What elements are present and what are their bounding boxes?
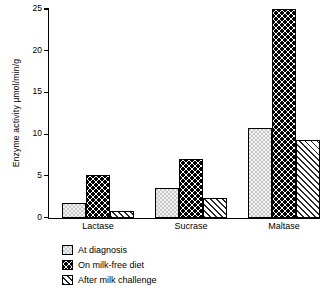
y-tick-label: 5 xyxy=(16,171,42,180)
legend-item: At diagnosis xyxy=(62,243,157,257)
bar-sucrase-after-milk-challenge xyxy=(203,198,227,217)
y-tick-label: 15 xyxy=(16,87,42,96)
x-axis-line xyxy=(48,218,320,219)
y-tick-mark xyxy=(44,134,49,135)
legend-swatch-at-diagnosis xyxy=(62,245,73,255)
legend-item: After milk challenge xyxy=(62,273,157,287)
legend-item: On milk-free diet xyxy=(62,258,157,272)
legend-label: On milk-free diet xyxy=(78,261,144,270)
bar-sucrase-at-diagnosis xyxy=(155,188,179,218)
bar-lactase-after-milk-challenge xyxy=(110,211,134,218)
legend-label: After milk challenge xyxy=(78,276,157,285)
bar-chart-figure: Enzyme activity µmol/min/g 0510152025 La… xyxy=(0,0,329,295)
bar-lactase-at-diagnosis xyxy=(62,203,86,217)
y-tick-label: 25 xyxy=(16,4,42,13)
bar-lactase-on-milk-free-diet xyxy=(86,175,110,218)
y-tick-mark xyxy=(44,50,49,51)
legend-swatch-after-milk-challenge xyxy=(62,275,73,285)
bar-maltase-at-diagnosis xyxy=(248,128,272,217)
y-tick-mark xyxy=(44,8,49,9)
y-tick-label: 20 xyxy=(16,46,42,55)
y-tick-label: 0 xyxy=(16,213,42,222)
y-tick-mark xyxy=(44,175,49,176)
legend-label: At diagnosis xyxy=(78,246,127,255)
chart-legend: At diagnosisOn milk-free dietAfter milk … xyxy=(62,243,157,288)
y-tick-label: 10 xyxy=(16,129,42,138)
bar-maltase-after-milk-challenge xyxy=(296,140,320,218)
bar-sucrase-on-milk-free-diet xyxy=(179,159,203,217)
category-label-sucrase: Sucrase xyxy=(155,221,227,231)
y-axis-line xyxy=(48,9,49,219)
category-label-lactase: Lactase xyxy=(62,221,134,231)
y-tick-mark xyxy=(44,217,49,218)
legend-swatch-on-milk-free-diet xyxy=(62,260,73,270)
y-tick-mark xyxy=(44,92,49,93)
bar-maltase-on-milk-free-diet xyxy=(272,9,296,218)
category-label-maltase: Maltase xyxy=(248,221,320,231)
